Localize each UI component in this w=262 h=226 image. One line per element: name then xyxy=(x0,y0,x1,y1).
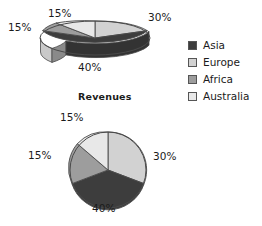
pie3d-label-australia: 15% xyxy=(8,22,32,33)
pie-charts-figure: 30% 40% 15% 15% Asia Europe Africa Austr… xyxy=(0,0,262,226)
legend-label-asia: Asia xyxy=(203,40,225,51)
legend-label-europe: Europe xyxy=(203,57,240,68)
legend-item-asia: Asia xyxy=(188,38,258,52)
legend-swatch-australia-icon xyxy=(188,92,197,101)
legend-item-australia: Australia xyxy=(188,89,258,103)
pie2d-label-africa: 15% xyxy=(60,112,84,123)
legend-label-africa: Africa xyxy=(203,74,233,85)
bottom-chart-title: Revenues xyxy=(78,92,132,102)
legend-swatch-africa-icon xyxy=(188,75,197,84)
legend-swatch-asia-icon xyxy=(188,41,197,50)
legend-item-europe: Europe xyxy=(188,55,258,69)
pie3d-label-asia: 40% xyxy=(78,62,102,73)
pie3d-label-europe: 30% xyxy=(148,12,172,23)
legend-item-africa: Africa xyxy=(188,72,258,86)
pie3d-side-australia xyxy=(41,38,53,62)
pie2d-label-europe: 30% xyxy=(153,151,177,162)
pie3d-label-africa: 15% xyxy=(48,8,72,19)
pie2d-label-australia: 15% xyxy=(28,150,52,161)
pie2d-label-asia: 40% xyxy=(92,203,116,214)
legend-label-australia: Australia xyxy=(203,91,249,102)
chart-legend: Asia Europe Africa Australia xyxy=(188,38,258,106)
legend-swatch-europe-icon xyxy=(188,58,197,67)
